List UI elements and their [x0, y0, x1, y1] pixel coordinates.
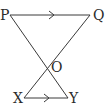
label-q: Q — [93, 7, 104, 23]
label-y: Y — [68, 90, 79, 106]
label-p: P — [0, 7, 9, 23]
segment-qx — [24, 15, 90, 98]
geometry-diagram: P Q O X Y — [0, 0, 107, 110]
label-x: X — [13, 90, 23, 106]
label-o: O — [51, 59, 62, 75]
segment-py — [10, 15, 68, 98]
